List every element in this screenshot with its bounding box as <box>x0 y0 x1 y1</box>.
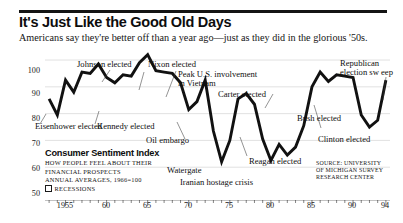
x-tick-label-1955: 1955 <box>57 201 73 210</box>
legend-recessions-entry: RECESSIONS <box>45 185 159 192</box>
annotation-iranian-hostage-crisis: Iranian hostage crisis <box>180 178 253 188</box>
y-tick-label-50: 50 <box>24 189 40 198</box>
annotation-reagan-elected: Reagan elected <box>249 157 301 167</box>
source-note: SOURCE: UNIVERSITY OF MICHIGAN SURVEY RE… <box>316 160 383 181</box>
legend-subtitle-line3: ANNUAL AVERAGES, 1966=100 <box>45 176 159 183</box>
annotation-clinton-elected: Clinton elected <box>318 135 370 145</box>
x-tick-label-1970: 70 <box>184 201 192 210</box>
legend-subtitle-line2: FINANCIAL PROSPECTS <box>45 168 159 175</box>
legend-title: Consumer Sentiment Index <box>45 148 159 158</box>
x-tick-label-1975: 75 <box>225 201 233 210</box>
page-title: It's Just Like the Good Old Days <box>19 14 389 30</box>
annotation-watergate: Watergate <box>167 166 201 176</box>
x-tick-label-1990: 90 <box>348 201 356 210</box>
y-tick-label-60: 60 <box>24 164 40 173</box>
top-divider-rule <box>19 10 387 13</box>
y-tick-label-90: 90 <box>24 89 40 98</box>
recession-swatch-icon <box>45 185 52 192</box>
x-tick-label-1985: 85 <box>307 201 315 210</box>
annotation-republican-sweep-line2: election sw eep <box>340 68 393 78</box>
annotation-carter-elected: Carter elected <box>218 90 266 100</box>
annotation-eisenhower-elected: Eisenhower elected <box>35 122 102 132</box>
y-tick-label-100: 100 <box>24 66 40 75</box>
page-subtitle: Americans say they're better off than a … <box>19 32 394 43</box>
annotation-johnson-elected: Johnson elected <box>77 60 132 70</box>
x-tick-label-1980: 80 <box>266 201 274 210</box>
x-tick-label-1994: 94 <box>381 201 389 210</box>
annotation-peak-vietnam-line2: in Vietnam <box>178 79 216 89</box>
source-line-3: RESEARCH CENTER <box>316 174 383 181</box>
annotation-bush-elected: Bush elected <box>297 114 341 124</box>
x-axis <box>45 194 390 202</box>
chart-page: It's Just Like the Good Old Days America… <box>0 0 403 223</box>
annotation-kennedy-elected: Kennedy elected <box>97 122 155 132</box>
x-tick-label-1960: 60 <box>102 201 110 210</box>
x-tick-label-1965: 65 <box>143 201 151 210</box>
chart-legend: Consumer Sentiment Index HOW PEOPLE FEEL… <box>45 148 159 192</box>
x-axis-ticks <box>45 200 390 208</box>
y-tick-label-70: 70 <box>24 139 40 148</box>
annotation-oil-embargo: Oil embargo <box>146 136 189 146</box>
source-line-1: SOURCE: UNIVERSITY <box>316 160 383 167</box>
legend-subtitle-line1: HOW PEOPLE FEEL ABOUT THEIR <box>45 159 159 166</box>
source-line-2: OF MICHIGAN SURVEY <box>316 167 383 174</box>
legend-recessions-label: RECESSIONS <box>55 185 96 192</box>
